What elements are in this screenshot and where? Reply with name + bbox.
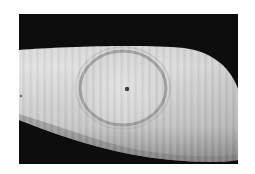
lesion-photograph-graphic bbox=[19, 14, 238, 164]
lesion-photograph: Grayscale photograph of a limb with an a… bbox=[19, 14, 238, 164]
